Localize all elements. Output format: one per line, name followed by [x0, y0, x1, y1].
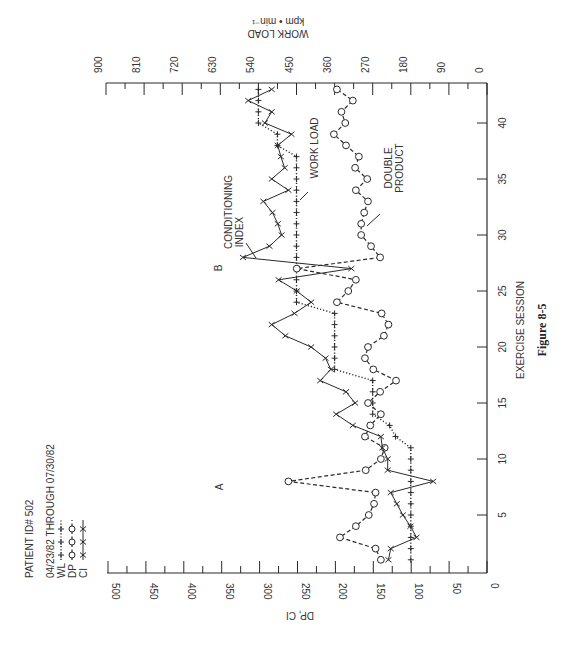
session-tick-label: 40: [497, 117, 508, 129]
dp-tick-label: 250: [300, 583, 311, 600]
dp-point: [377, 411, 384, 418]
dp-tick-label: 0: [489, 583, 500, 589]
dp-point: [364, 176, 371, 183]
svg-text:PRODUCT: PRODUCT: [394, 143, 405, 192]
legend: PATIENT ID# 502 04/23/82 THROUGH 07/30/8…: [24, 444, 89, 578]
dp-point: [342, 120, 349, 127]
workload-tick-label: 540: [245, 56, 256, 73]
dp-point: [330, 131, 337, 138]
figure-caption: Figure 8-5: [535, 304, 549, 357]
dp-point: [372, 489, 379, 496]
legend-entry-ci: CI: [78, 568, 89, 578]
dp-tick-label: 500: [110, 583, 121, 600]
dp-point: [372, 545, 379, 552]
dp-point: [365, 344, 372, 351]
dp-tick-label: 150: [375, 583, 386, 600]
workload-tick-label: 90: [436, 61, 447, 73]
legend-entry-wl: WL: [56, 563, 67, 578]
workload-axis-title: WORK LOAD kpm • min⁻¹: [247, 16, 308, 39]
dp-point: [385, 321, 392, 328]
dp-point: [358, 220, 365, 227]
dp-point: [338, 108, 345, 115]
dp-point: [378, 310, 385, 317]
dp-point: [349, 97, 356, 104]
dp-point: [367, 422, 374, 429]
dp-point: [334, 86, 341, 93]
dp-tick-label: 350: [224, 583, 235, 600]
dp-point: [358, 232, 365, 239]
dp-point: [352, 164, 359, 171]
dp-tick-label: 450: [148, 583, 159, 600]
dp-point: [362, 355, 369, 362]
legend-entry-dp: DP: [67, 564, 78, 578]
wl-series-label: WORK LOAD: [309, 117, 320, 178]
dp-point: [368, 243, 375, 250]
dp-point: [362, 467, 369, 474]
workload-tick-label: 180: [398, 56, 409, 73]
dp-point: [377, 456, 384, 463]
dp-point: [362, 433, 369, 440]
workload-tick-label: 810: [131, 56, 142, 73]
dp-point: [381, 332, 388, 339]
dp-point: [377, 556, 384, 563]
workload-tick-label: 360: [322, 56, 333, 73]
session-tick-label: 5: [497, 512, 508, 518]
annotation-b: B: [213, 264, 224, 271]
dp-point: [365, 198, 372, 205]
dp-point: [377, 388, 384, 395]
dp-ci-axis-ticks: 050100150200250300350400450500: [108, 561, 500, 600]
dp-point: [285, 478, 292, 485]
dp-point: [334, 299, 341, 306]
session-tick-label: 15: [497, 397, 508, 409]
dp-ci-axis-title: DP, CI: [286, 610, 314, 621]
workload-tick-label: 630: [207, 56, 218, 73]
session-tick-label: 10: [497, 453, 508, 465]
svg-text:kpm • min⁻¹: kpm • min⁻¹: [251, 16, 304, 27]
ci-series-label: CONDITIONING: [223, 175, 234, 249]
legend-patient: PATIENT ID# 502: [24, 499, 35, 578]
workload-tick-label: 720: [169, 56, 180, 73]
dp-point: [293, 265, 300, 272]
dp-point: [345, 288, 352, 295]
dp-tick-label: 400: [186, 583, 197, 600]
dp-tick-label: 200: [337, 583, 348, 600]
dp-point: [365, 400, 372, 407]
dp-point: [352, 187, 359, 194]
workload-tick-label: 900: [93, 56, 104, 73]
annotation-a: A: [214, 483, 225, 490]
dp-point: [365, 512, 372, 519]
session-tick-label: 20: [497, 341, 508, 353]
dp-tick-label: 50: [451, 583, 462, 595]
dp-tick-label: 100: [413, 583, 424, 600]
dp-point: [337, 534, 344, 541]
dp-point: [371, 500, 378, 507]
rehab-chart: 050100150200250300350400450500 090180270…: [0, 0, 567, 649]
session-tick-label: 25: [497, 285, 508, 297]
svg-text:INDEX: INDEX: [234, 216, 245, 247]
dp-point: [370, 366, 377, 373]
session-axis-title: EXERCISE SESSION: [515, 281, 526, 379]
dp-point: [355, 153, 362, 160]
dp-series-label: DOUBLE: [383, 147, 394, 188]
session-axis-ticks: 510152025303540: [477, 117, 508, 518]
workload-tick-label: 270: [360, 56, 371, 73]
svg-text:WORK LOAD: WORK LOAD: [247, 28, 308, 39]
dp-point: [377, 254, 384, 261]
legend-dates: 04/23/82 THROUGH 07/30/82: [45, 444, 56, 578]
dp-point: [352, 276, 359, 283]
series-conditioning-index: [240, 87, 436, 562]
dp-point: [352, 523, 359, 530]
dp-point: [361, 209, 368, 216]
workload-axis-ticks: 090180270360450540630720810900: [93, 56, 487, 95]
session-tick-label: 30: [497, 229, 508, 241]
dp-point: [343, 142, 350, 149]
dp-tick-label: 300: [262, 583, 273, 600]
session-tick-label: 35: [497, 173, 508, 185]
workload-tick-label: 450: [284, 56, 295, 73]
workload-tick-label: 0: [474, 67, 485, 73]
dp-point: [393, 377, 400, 384]
